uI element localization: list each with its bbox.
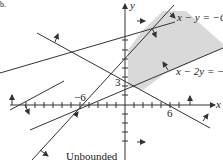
line-lower-left: [10, 81, 64, 110]
direction-arrow: [40, 150, 48, 156]
x-tick-label-neg6: −6: [74, 91, 86, 103]
y-axis-label: y: [129, 0, 135, 11]
panel-letter: b.: [0, 0, 6, 9]
x-axis-label: x: [215, 98, 221, 110]
direction-arrow: [25, 105, 29, 114]
line-x-minus-2y-eq-neg2: [30, 48, 223, 130]
region-caption: Unbounded: [66, 150, 118, 162]
direction-arrow: [203, 114, 208, 121]
x-tick-label-6: 6: [167, 107, 173, 119]
graph-canvas: b. y x −6 6 3 x − y = −6 x − 2y = −2 Unb…: [0, 0, 223, 162]
constraint-label-2: x − 2y = −2: [175, 65, 223, 77]
constraint-label-1: x − y = −6: [176, 11, 223, 23]
direction-arrow: [55, 34, 58, 42]
linear-inequality-graph: b. y x −6 6 3 x − y = −6 x − 2y = −2 Unb…: [0, 0, 223, 162]
y-tick-label-3: 3: [115, 76, 121, 88]
